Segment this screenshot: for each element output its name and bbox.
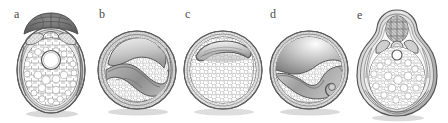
panel-e: e <box>346 0 448 123</box>
panel-b-illustration <box>86 0 186 123</box>
panel-b: b <box>86 0 186 123</box>
figure-root: a <box>0 0 448 123</box>
panel-e-illustration <box>346 0 448 123</box>
panel-d-illustration <box>258 0 358 123</box>
panel-a-illustration <box>0 0 100 123</box>
panel-a: a <box>0 0 100 123</box>
panel-c-illustration <box>172 0 272 123</box>
panel-d: d <box>258 0 358 123</box>
panel-c: c <box>172 0 272 123</box>
